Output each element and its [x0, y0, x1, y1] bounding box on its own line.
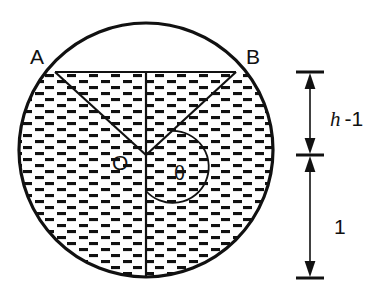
dimension-label-upper-variable: h — [330, 107, 341, 131]
figure-container: A B O θ h- — [0, 0, 372, 299]
dimension-scale: h-1 1 — [296, 72, 363, 278]
label-angle-theta: θ — [174, 162, 185, 184]
dimension-label-upper: h-1 — [330, 107, 363, 131]
dimension-label-upper-offset: -1 — [345, 107, 364, 130]
label-point-b: B — [246, 45, 260, 68]
geometry-diagram: A B O θ h- — [0, 0, 372, 299]
arrowhead-up-upper — [305, 73, 316, 89]
dimension-arrow-upper — [305, 73, 316, 154]
arrowhead-down-lower — [305, 261, 316, 277]
arrowhead-up-lower — [305, 156, 316, 172]
label-point-a: A — [30, 45, 44, 68]
dimension-arrow-lower — [305, 156, 316, 277]
dimension-label-lower: 1 — [334, 215, 346, 238]
arrowhead-down-upper — [305, 138, 316, 154]
label-center-o: O — [112, 151, 128, 174]
